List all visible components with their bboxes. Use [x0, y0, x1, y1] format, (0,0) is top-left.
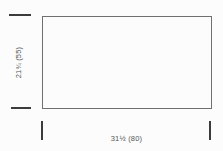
width-dimension: 31½ (80): [42, 127, 211, 145]
height-dimension: 21¾ (55): [6, 16, 32, 108]
rectangle-outline: [42, 16, 212, 109]
dimension-drawing: 21¾ (55) 31½ (80): [0, 0, 223, 151]
height-dimension-label: 21¾ (55): [15, 46, 24, 78]
width-dimension-label: 31½ (80): [111, 134, 143, 143]
